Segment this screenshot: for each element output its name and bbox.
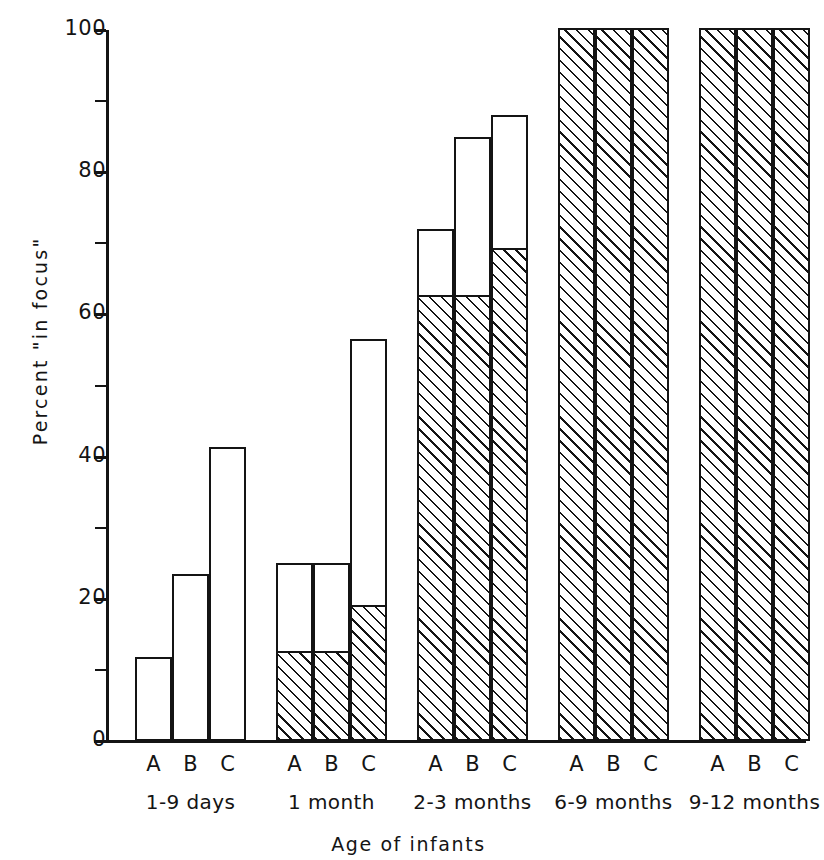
- y-tick-label: 40: [50, 443, 106, 467]
- y-tick-label: 20: [50, 585, 106, 609]
- y-tick-minor: [95, 527, 106, 529]
- bar-hatched-segment: [491, 248, 528, 741]
- y-tick-label: 100: [50, 16, 106, 40]
- y-tick-label: 0: [50, 727, 106, 751]
- bar[interactable]: [172, 574, 209, 741]
- bar[interactable]: [313, 563, 350, 741]
- y-tick-label: 80: [50, 158, 106, 182]
- category-label-a: A: [134, 752, 174, 776]
- bar-hatched-segment: [558, 28, 595, 741]
- category-label-c: C: [349, 752, 389, 776]
- category-label-c: C: [631, 752, 671, 776]
- bar-hatched-segment: [773, 28, 810, 741]
- bar[interactable]: [454, 137, 491, 741]
- category-label-b: B: [312, 752, 352, 776]
- y-tick-label: 60: [50, 300, 106, 324]
- bar-hatched-segment: [350, 605, 387, 741]
- bar-hatched-segment: [736, 28, 773, 741]
- bar-group: [135, 30, 246, 741]
- category-label-c: C: [772, 752, 812, 776]
- bar[interactable]: [632, 30, 669, 741]
- bar[interactable]: [209, 447, 246, 741]
- bar-hatched-segment: [454, 295, 491, 741]
- bar[interactable]: [736, 30, 773, 741]
- plot-area: [106, 30, 806, 741]
- bar[interactable]: [350, 339, 387, 741]
- bar-group: [558, 30, 669, 741]
- bar-group: [417, 30, 528, 741]
- category-label-b: B: [453, 752, 493, 776]
- bar-hatched-segment: [595, 28, 632, 741]
- y-tick-minor: [95, 242, 106, 244]
- category-label-b: B: [594, 752, 634, 776]
- y-axis-title: Percent "in focus": [29, 141, 51, 541]
- bar[interactable]: [276, 563, 313, 741]
- category-label-a: A: [416, 752, 456, 776]
- bar-group: [276, 30, 387, 741]
- bar[interactable]: [558, 30, 595, 741]
- bar[interactable]: [135, 657, 172, 741]
- category-label-b: B: [171, 752, 211, 776]
- category-label-b: B: [735, 752, 775, 776]
- category-label-c: C: [490, 752, 530, 776]
- category-label-a: A: [557, 752, 597, 776]
- bar-hatched-segment: [699, 28, 736, 741]
- bar[interactable]: [699, 30, 736, 741]
- bar-hatched-segment: [276, 651, 313, 741]
- group-label: 9-12 months: [665, 790, 824, 814]
- bar[interactable]: [773, 30, 810, 741]
- bar-hatched-segment: [417, 295, 454, 741]
- category-label-c: C: [208, 752, 248, 776]
- category-label-a: A: [275, 752, 315, 776]
- bar[interactable]: [417, 229, 454, 741]
- x-axis-title: Age of infants: [0, 833, 817, 855]
- category-label-a: A: [698, 752, 738, 776]
- y-tick-minor: [95, 385, 106, 387]
- bar[interactable]: [595, 30, 632, 741]
- bar-group: [699, 30, 810, 741]
- bar-hatched-segment: [313, 651, 350, 741]
- bar-hatched-segment: [632, 28, 669, 741]
- bar[interactable]: [491, 115, 528, 741]
- y-tick-minor: [95, 669, 106, 671]
- y-tick-minor: [95, 100, 106, 102]
